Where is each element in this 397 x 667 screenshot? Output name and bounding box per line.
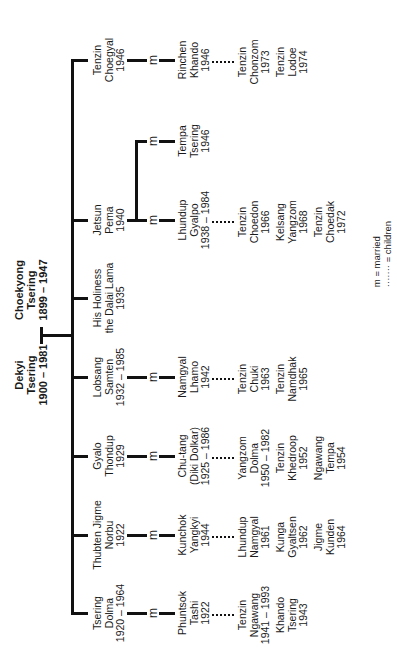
branch-dalai-lama — [71, 297, 88, 300]
name-line: Ngawang — [313, 436, 325, 480]
name-line: Dekyi — [13, 344, 25, 405]
dates-line: 1964 — [336, 519, 348, 555]
branch-gyalo-thondup — [71, 455, 88, 458]
dates-line: 1950 – 1982 — [260, 429, 272, 487]
dates-line: 1925 – 1986 — [200, 427, 212, 485]
dates-line: 1942 — [200, 356, 212, 397]
dates-line: 1943 — [298, 597, 310, 633]
name-line: Tenzin — [92, 38, 104, 82]
dates-line: 1900 – 1981 — [37, 344, 49, 405]
dates-line: 1922 — [200, 591, 212, 635]
name-line: Tenzin — [237, 40, 249, 85]
dates-line: 1965 — [298, 357, 310, 402]
name-line: Lhundup — [237, 516, 249, 557]
dates-line: 1966 — [260, 201, 272, 244]
dates-line: 1938 – 1984 — [200, 191, 212, 249]
dates-line: 1972 — [336, 201, 348, 243]
dates-line: 1899 – 1947 — [37, 259, 49, 320]
name-line: Thubten Jigme — [92, 500, 104, 569]
name-line: Tsering — [25, 344, 37, 405]
legend-children: ······· = children — [382, 221, 393, 287]
name-line: Tenzin — [313, 201, 325, 243]
name-line: Chu-tang — [177, 427, 189, 485]
marriage-split — [135, 140, 138, 222]
name-line: Tenzin — [237, 586, 249, 644]
children-connector — [212, 614, 234, 616]
name-line: Jigme — [313, 519, 325, 555]
name-line: Yangzom — [237, 429, 249, 487]
name-line: Kelsang — [275, 200, 287, 244]
dates-line: 1944 — [200, 515, 212, 556]
dates-line: 1962 — [298, 516, 310, 557]
dates-line: 1952 — [298, 435, 310, 481]
dates-line: 1946 — [200, 41, 212, 80]
name-line: Lhundup — [177, 191, 189, 249]
name-line: Namgyal — [177, 356, 189, 397]
name-line: Khando — [275, 597, 287, 633]
dates-line: 1968 — [298, 200, 310, 244]
name-line: Jetsun — [92, 205, 104, 236]
children-connector — [212, 457, 234, 459]
name-line: Kunchok — [177, 515, 189, 556]
name-line: Tenzin — [237, 364, 249, 394]
name-line: Tempa — [177, 124, 189, 158]
name-line: Kunga — [275, 516, 287, 557]
children-connector — [212, 61, 234, 63]
dates-line: 1940 — [115, 205, 127, 236]
name-line: Tenzin — [275, 47, 287, 77]
name-line: Tsering — [92, 584, 104, 642]
dates-line: 1920 – 1964 — [115, 584, 127, 642]
children-trunk — [71, 59, 74, 615]
name-line: Tenzin — [237, 201, 249, 244]
children-connector — [212, 378, 234, 380]
children-connector — [212, 536, 234, 538]
name-line: Lobsang — [92, 348, 104, 406]
branch-tsering-dolma — [71, 612, 88, 615]
dates-line: 1974 — [298, 47, 310, 77]
name-line: Tenzin — [275, 357, 287, 402]
branch-tenzin-choegyal — [71, 59, 88, 62]
dates-line: 1922 — [115, 500, 127, 569]
name-line: Tenzin — [275, 435, 287, 481]
branch-jetsun-pema — [71, 219, 88, 222]
branch-thubten-jigme-norbu — [71, 534, 88, 537]
legend-married: m = married — [371, 221, 382, 287]
dates-line: 1961 — [260, 516, 272, 557]
branch-lobsang-samten — [71, 376, 88, 379]
name-line: His Holiness — [92, 263, 104, 334]
dates-line: 1932 – 1985 — [115, 348, 127, 406]
parents-connector — [40, 334, 73, 337]
name-line: Tsering — [25, 259, 37, 320]
dates-line: 1941 – 1993 — [260, 586, 272, 644]
dates-line: 1946 — [115, 38, 127, 82]
dates-line: 1929 — [115, 435, 127, 476]
children-connector — [212, 221, 234, 223]
name-line: Phuntsok — [177, 591, 189, 635]
dates-line: 1954 — [336, 436, 348, 480]
name-line: Choekyong — [13, 259, 25, 320]
dates-line: 1973 — [260, 40, 272, 85]
dates-line: 1963 — [260, 364, 272, 394]
dates-line: 1935 — [115, 263, 127, 334]
dates-line: 1946 — [200, 124, 212, 158]
name-line: Gyalo — [92, 435, 104, 476]
name-line: Rinchen — [177, 41, 189, 80]
